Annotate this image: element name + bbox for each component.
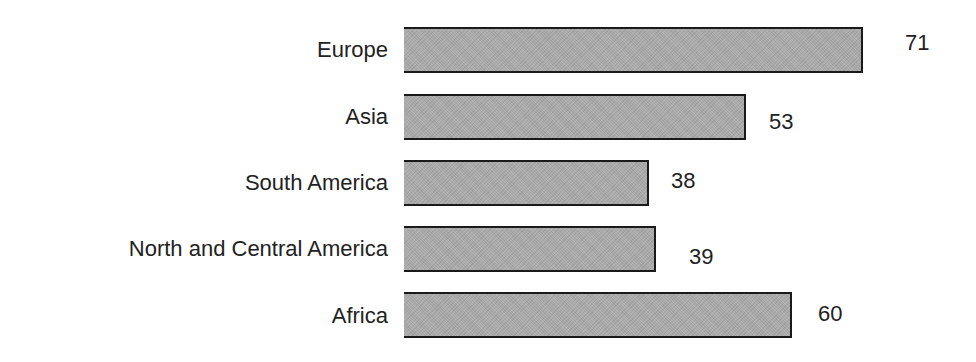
value-label-europe: 71 (905, 31, 929, 55)
value-label-africa: 60 (818, 302, 842, 326)
category-label-north-and-central-america: North and Central America (129, 237, 388, 261)
value-label-north-and-central-america: 39 (689, 245, 713, 269)
category-label-south-america: South America (245, 171, 388, 195)
value-label-asia: 53 (769, 110, 793, 134)
horizontal-bar-chart: Europe71Asia53South America38North and C… (0, 0, 976, 362)
bar-europe (404, 27, 863, 73)
bar-africa (404, 292, 792, 338)
bar-asia (404, 94, 746, 140)
value-label-south-america: 38 (671, 169, 695, 193)
category-label-africa: Africa (332, 304, 388, 328)
bar-north-and-central-america (404, 226, 656, 272)
bar-south-america (404, 160, 649, 206)
category-label-europe: Europe (317, 38, 388, 62)
category-label-asia: Asia (345, 105, 388, 129)
